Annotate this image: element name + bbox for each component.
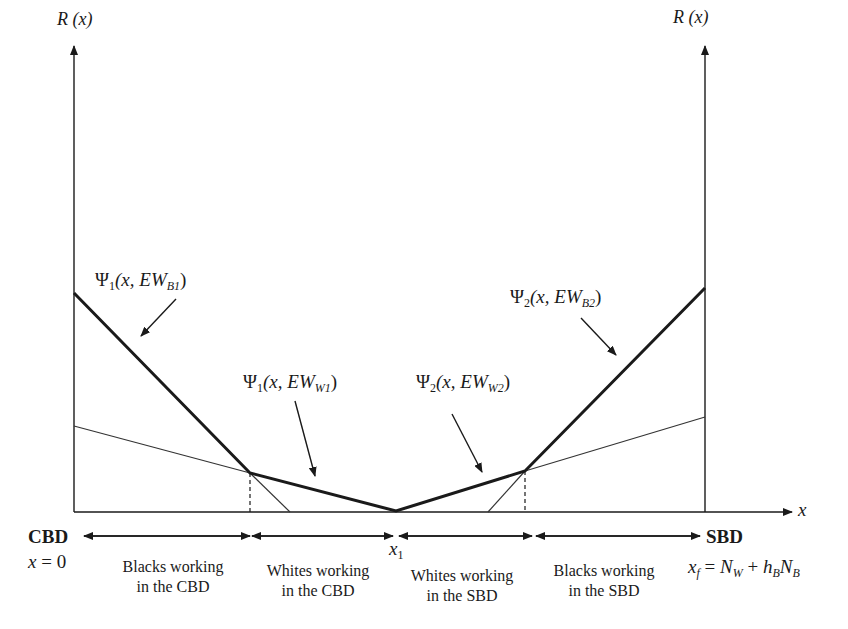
x-axis-label: x xyxy=(798,500,806,519)
bid-rent-diagram: R (x) R (x) x Ψ1(x, EWB1) Ψ1(x, EWW1) Ψ2… xyxy=(0,0,848,629)
equilibrium-bid-rent-envelope xyxy=(74,288,705,511)
pointer-arrow-psi2-W2 xyxy=(452,414,482,472)
curve-label-psi1-W1: Ψ1(x, EWW1) xyxy=(243,372,337,394)
curve-label-psi2-W2: Ψ2(x, EWW2) xyxy=(416,372,510,394)
curve-label-psi1-B1: Ψ1(x, EWB1) xyxy=(95,270,186,292)
pointer-arrow-psi1-W1 xyxy=(295,401,315,476)
right-y-axis-label: R (x) xyxy=(673,8,708,26)
region-label-blacks-sbd: Blacks workingin the SBD xyxy=(534,561,674,601)
cbd-equation: x = 0 xyxy=(28,552,66,571)
region-label-blacks-cbd: Blacks workingin the CBD xyxy=(103,557,243,597)
x1-label: x1 xyxy=(389,539,403,561)
sbd-label: SBD xyxy=(706,527,743,546)
region-label-whites-sbd: Whites workingin the SBD xyxy=(392,566,532,606)
left-y-axis-label: R (x) xyxy=(57,10,92,28)
region-label-whites-cbd: Whites workingin the CBD xyxy=(248,561,388,601)
pointer-arrow-psi1-B1 xyxy=(141,299,176,336)
thin-white-cbd-line xyxy=(74,426,250,473)
sbd-equation: xf = NW + hBNB xyxy=(688,557,800,579)
curve-label-psi2-B2: Ψ2(x, EWB2) xyxy=(510,287,601,309)
pointer-arrow-psi2-B2 xyxy=(581,318,616,355)
cbd-label: CBD xyxy=(28,527,68,546)
